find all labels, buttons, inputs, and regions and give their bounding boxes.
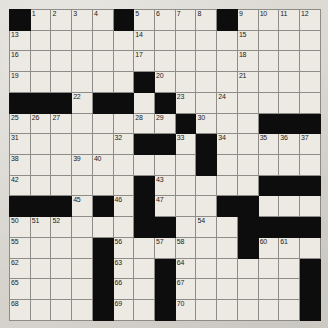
crossword-cell[interactable] xyxy=(279,30,300,51)
crossword-cell[interactable] xyxy=(134,237,155,258)
crossword-cell[interactable] xyxy=(30,72,51,93)
crossword-cell[interactable] xyxy=(237,92,258,113)
crossword-cell[interactable] xyxy=(92,175,113,196)
crossword-cell[interactable]: 3 xyxy=(72,10,93,31)
crossword-cell[interactable] xyxy=(279,155,300,176)
crossword-cell[interactable]: 24 xyxy=(217,92,238,113)
crossword-cell[interactable]: 70 xyxy=(175,300,196,321)
crossword-cell[interactable] xyxy=(72,217,93,238)
crossword-cell[interactable] xyxy=(237,113,258,134)
crossword-cell[interactable]: 34 xyxy=(217,134,238,155)
crossword-cell[interactable]: 9 xyxy=(237,10,258,31)
crossword-cell[interactable] xyxy=(196,51,217,72)
crossword-cell[interactable] xyxy=(51,279,72,300)
crossword-cell[interactable] xyxy=(300,30,321,51)
crossword-cell[interactable] xyxy=(300,155,321,176)
crossword-cell[interactable]: 43 xyxy=(155,175,176,196)
crossword-cell[interactable] xyxy=(92,51,113,72)
crossword-cell[interactable] xyxy=(72,30,93,51)
crossword-cell[interactable]: 16 xyxy=(10,51,31,72)
crossword-cell[interactable] xyxy=(237,258,258,279)
crossword-cell[interactable] xyxy=(92,134,113,155)
crossword-cell[interactable] xyxy=(134,92,155,113)
crossword-cell[interactable] xyxy=(175,155,196,176)
crossword-cell[interactable] xyxy=(279,300,300,321)
crossword-cell[interactable] xyxy=(258,155,279,176)
crossword-cell[interactable] xyxy=(72,113,93,134)
crossword-cell[interactable] xyxy=(217,30,238,51)
crossword-cell[interactable] xyxy=(217,279,238,300)
crossword-cell[interactable]: 64 xyxy=(175,258,196,279)
crossword-cell[interactable] xyxy=(72,72,93,93)
crossword-cell[interactable]: 35 xyxy=(258,134,279,155)
crossword-cell[interactable] xyxy=(51,175,72,196)
crossword-cell[interactable] xyxy=(134,155,155,176)
crossword-cell[interactable] xyxy=(258,279,279,300)
crossword-cell[interactable] xyxy=(196,92,217,113)
crossword-cell[interactable] xyxy=(51,134,72,155)
crossword-cell[interactable]: 42 xyxy=(10,175,31,196)
crossword-cell[interactable]: 12 xyxy=(300,10,321,31)
crossword-cell[interactable] xyxy=(279,92,300,113)
crossword-cell[interactable]: 68 xyxy=(10,300,31,321)
crossword-cell[interactable] xyxy=(30,155,51,176)
crossword-cell[interactable] xyxy=(258,300,279,321)
crossword-cell[interactable]: 18 xyxy=(237,51,258,72)
crossword-cell[interactable] xyxy=(51,51,72,72)
crossword-cell[interactable] xyxy=(300,72,321,93)
crossword-cell[interactable] xyxy=(237,155,258,176)
crossword-cell[interactable]: 26 xyxy=(30,113,51,134)
crossword-cell[interactable] xyxy=(92,30,113,51)
crossword-cell[interactable]: 61 xyxy=(279,237,300,258)
crossword-cell[interactable] xyxy=(258,51,279,72)
crossword-cell[interactable]: 52 xyxy=(51,217,72,238)
crossword-cell[interactable]: 8 xyxy=(196,10,217,31)
crossword-cell[interactable]: 46 xyxy=(113,196,134,217)
crossword-cell[interactable] xyxy=(72,279,93,300)
crossword-cell[interactable] xyxy=(196,300,217,321)
crossword-cell[interactable]: 21 xyxy=(237,72,258,93)
crossword-cell[interactable]: 29 xyxy=(155,113,176,134)
crossword-cell[interactable]: 47 xyxy=(155,196,176,217)
crossword-cell[interactable]: 25 xyxy=(10,113,31,134)
crossword-cell[interactable]: 13 xyxy=(10,30,31,51)
crossword-cell[interactable] xyxy=(300,51,321,72)
crossword-cell[interactable]: 54 xyxy=(196,217,217,238)
crossword-cell[interactable] xyxy=(113,217,134,238)
crossword-cell[interactable] xyxy=(237,175,258,196)
crossword-cell[interactable] xyxy=(196,72,217,93)
crossword-cell[interactable] xyxy=(155,155,176,176)
crossword-cell[interactable] xyxy=(217,113,238,134)
crossword-cell[interactable] xyxy=(134,300,155,321)
crossword-cell[interactable]: 23 xyxy=(175,92,196,113)
crossword-cell[interactable] xyxy=(217,258,238,279)
crossword-cell[interactable]: 7 xyxy=(175,10,196,31)
crossword-cell[interactable] xyxy=(196,237,217,258)
crossword-cell[interactable]: 62 xyxy=(10,258,31,279)
crossword-cell[interactable] xyxy=(217,217,238,238)
crossword-cell[interactable] xyxy=(113,72,134,93)
crossword-cell[interactable] xyxy=(258,92,279,113)
crossword-cell[interactable]: 22 xyxy=(72,92,93,113)
crossword-cell[interactable]: 36 xyxy=(279,134,300,155)
crossword-cell[interactable]: 11 xyxy=(279,10,300,31)
crossword-cell[interactable]: 20 xyxy=(155,72,176,93)
crossword-cell[interactable] xyxy=(51,155,72,176)
crossword-cell[interactable] xyxy=(175,217,196,238)
crossword-cell[interactable] xyxy=(51,72,72,93)
crossword-cell[interactable] xyxy=(279,279,300,300)
crossword-cell[interactable]: 58 xyxy=(175,237,196,258)
crossword-cell[interactable]: 4 xyxy=(92,10,113,31)
crossword-cell[interactable]: 51 xyxy=(30,217,51,238)
crossword-cell[interactable] xyxy=(279,51,300,72)
crossword-cell[interactable]: 63 xyxy=(113,258,134,279)
crossword-cell[interactable] xyxy=(72,237,93,258)
crossword-cell[interactable] xyxy=(196,175,217,196)
crossword-cell[interactable] xyxy=(237,279,258,300)
crossword-cell[interactable] xyxy=(72,51,93,72)
crossword-cell[interactable]: 14 xyxy=(134,30,155,51)
crossword-cell[interactable] xyxy=(300,196,321,217)
crossword-cell[interactable] xyxy=(300,92,321,113)
crossword-cell[interactable]: 57 xyxy=(155,237,176,258)
crossword-cell[interactable] xyxy=(175,72,196,93)
